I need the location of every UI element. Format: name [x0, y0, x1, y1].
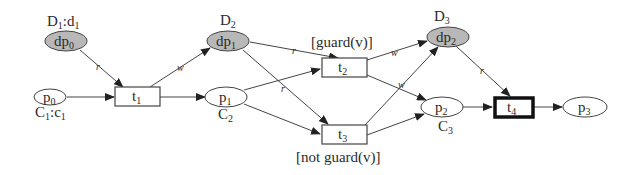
transition-t3: t3 [not guard(v)] [296, 125, 381, 166]
arc-p1-t3 [244, 104, 320, 134]
annotation-D3: D3 [434, 8, 450, 26]
transition-t1: t1 [115, 87, 160, 106]
place-dp0: dp0 D1:d1 [45, 13, 87, 51]
guard-label: [guard(v)] [311, 34, 373, 51]
petri-net-diagram: r w r r w w r dp0 D1:d1 dp1 D2 dp2 D3 p0… [0, 0, 636, 175]
arc-label-r: r [480, 65, 484, 76]
place-p0: p0 C1:c1 [34, 89, 66, 122]
place-dp1: dp1 D2 [207, 12, 249, 51]
annotation-C1-c1: C1:c1 [35, 104, 66, 122]
place-p1: p1 C2 [205, 87, 247, 124]
transition-t2: t2 [guard(v)] [311, 34, 373, 77]
place-dp2: dp2 D3 [427, 8, 469, 47]
arc-label-r: r [292, 45, 296, 56]
place-p2: p2 C3 [421, 97, 463, 136]
arc-label-r: r [96, 61, 100, 72]
arc-t3-p2 [367, 114, 424, 135]
annotation-D2: D2 [220, 12, 236, 30]
annotation-C2: C2 [218, 106, 233, 124]
arc-label-w: w [398, 79, 405, 90]
arc-label-w: w [391, 47, 398, 58]
arc-t2-p2 [367, 75, 426, 100]
annotation-C3: C3 [438, 118, 453, 136]
place-p3: p3 [563, 97, 607, 117]
transition-t4: t4 [495, 98, 533, 117]
arc-label-w: w [177, 62, 184, 73]
arc-label-r: r [281, 83, 285, 94]
arc-dp0-t1 [80, 50, 123, 87]
not-guard-label: [not guard(v)] [296, 149, 381, 166]
annotation-D1-d1: D1:d1 [47, 13, 80, 31]
